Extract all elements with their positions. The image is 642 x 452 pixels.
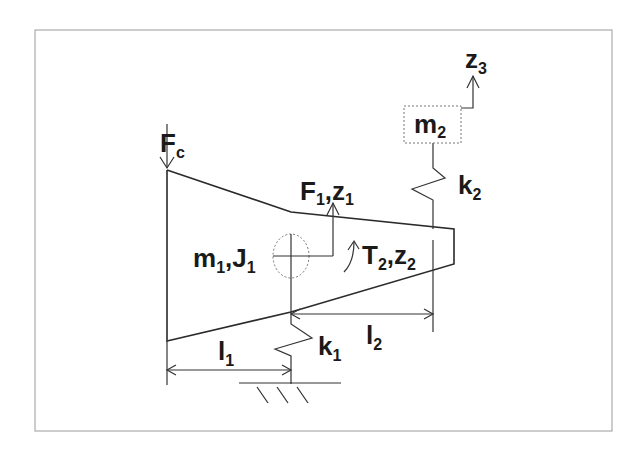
- ground-icon: [239, 383, 341, 403]
- label-m2: m2: [414, 109, 446, 141]
- diagram-frame: [35, 30, 612, 431]
- label-l1: l1: [218, 336, 234, 369]
- force-1-arrow-icon: [327, 203, 339, 256]
- displacement-3-arrow-icon: [461, 76, 479, 108]
- label-l2: l2: [366, 320, 382, 353]
- label-k1: k1: [318, 331, 341, 364]
- label-t2-z2: T2,z2: [362, 240, 416, 273]
- torque-2-arrow-icon: [344, 241, 359, 272]
- center-of-mass-icon: [273, 234, 333, 278]
- label-f1-z1: F1,z1: [300, 176, 354, 208]
- spring-2-icon: [412, 143, 445, 332]
- dimension-l2: [291, 309, 433, 319]
- label-fc: Fc: [160, 128, 185, 161]
- label-k2: k2: [458, 170, 481, 203]
- label-z3: z3: [465, 44, 487, 77]
- diagram-canvas: Fc F1,z1 m1,J1 T2,z2 k1 l1: [0, 0, 642, 452]
- label-m1-j1: m1,J1: [193, 243, 256, 276]
- spring-1-icon: [275, 278, 312, 384]
